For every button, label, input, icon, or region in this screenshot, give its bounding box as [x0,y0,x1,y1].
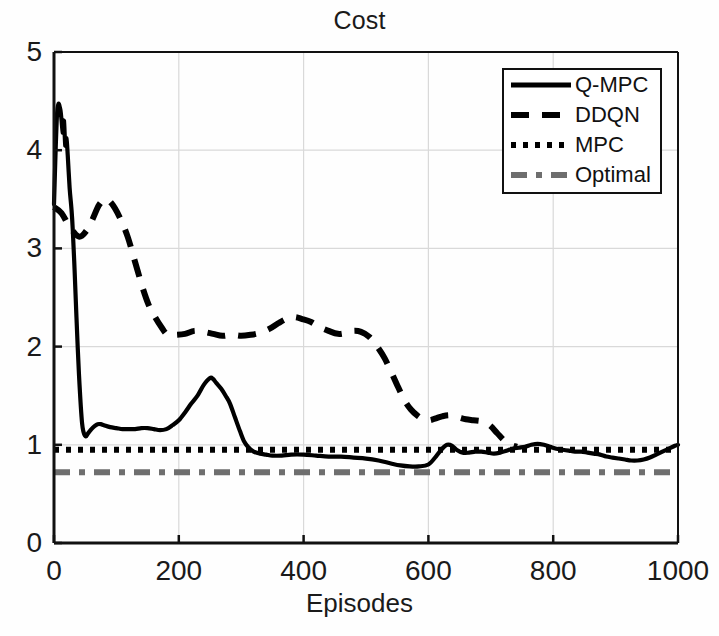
x-tick-label: 400 [280,555,327,587]
legend-label: Q-MPC [575,74,648,96]
legend-item-ddqn[interactable]: DDQN [504,100,660,130]
x-axis-label: Episodes [0,588,719,619]
y-tick-label: 3 [0,232,42,264]
legend-line-sample-icon [510,136,572,154]
legend-label: DDQN [575,104,640,126]
x-tick-label: 800 [530,555,577,587]
legend-item-q-mpc[interactable]: Q-MPC [504,70,660,100]
legend-item-optimal[interactable]: Optimal [504,160,660,190]
chart-page: Cost 01234502004006008001000 Episodes Q-… [0,0,719,636]
x-tick-label: 600 [405,555,452,587]
legend-label: MPC [575,134,624,156]
legend-item-mpc[interactable]: MPC [504,130,660,160]
y-tick-label: 5 [0,36,42,68]
legend[interactable]: Q-MPCDDQNMPCOptimal [502,68,662,194]
x-tick-label: 0 [46,555,62,587]
y-tick-label: 1 [0,429,42,461]
x-tick-label: 1000 [647,555,709,587]
legend-label: Optimal [575,164,651,186]
legend-line-sample-icon [510,106,572,124]
legend-line-sample-icon [510,166,572,184]
legend-line-sample-icon [510,76,572,94]
y-tick-label: 0 [0,527,42,559]
series-line-ddqn [54,199,517,447]
y-tick-label: 4 [0,134,42,166]
y-tick-label: 2 [0,331,42,363]
x-tick-label: 200 [155,555,202,587]
